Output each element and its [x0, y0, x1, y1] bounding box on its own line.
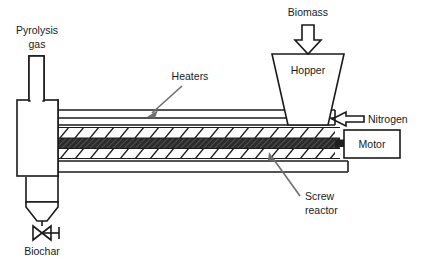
diagram-canvas: Hopper Biomass Nitrogen Motor Heaters Sc… — [0, 0, 425, 268]
screw-reactor-label-line2: reactor — [305, 204, 338, 216]
screw-reactor-schematic: Hopper Biomass Nitrogen Motor Heaters Sc… — [0, 0, 425, 268]
pyrolysis-gas-pipe-face — [29, 56, 44, 101]
screw-reactor-label-line1: Screw — [305, 190, 335, 202]
biochar-collector-body — [26, 176, 58, 202]
biochar-label: Biochar — [24, 245, 60, 257]
pyrolysis-gas-label-line1: Pyrolysis — [16, 24, 58, 36]
hopper-label: Hopper — [291, 64, 326, 76]
pyrolysis-gas-label-line2: gas — [29, 38, 46, 50]
condenser-vessel-face — [17, 100, 58, 176]
heaters-label: Heaters — [172, 70, 209, 82]
biomass-label: Biomass — [288, 6, 328, 18]
nitrogen-inlet: Nitrogen — [332, 112, 408, 126]
motor-label: Motor — [359, 138, 386, 150]
nitrogen-label: Nitrogen — [368, 113, 408, 125]
pipe-seam-cover — [31, 98, 43, 102]
screw-shaft — [57, 138, 340, 149]
motor: Motor — [344, 130, 400, 158]
